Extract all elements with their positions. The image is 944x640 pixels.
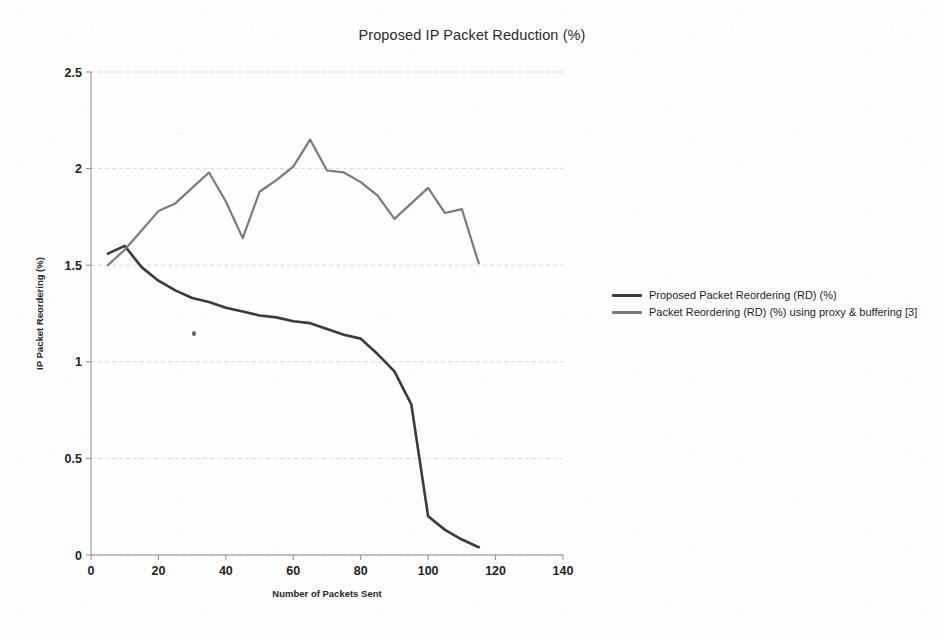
svg-text:0.5: 0.5	[65, 452, 82, 466]
svg-text:2: 2	[75, 162, 82, 176]
series-line-2	[108, 140, 479, 266]
chart-figure: Proposed IP Packet Reduction (%) 00.511.…	[0, 0, 944, 640]
series-line-1	[108, 246, 479, 547]
tick-labels: 00.511.522.5020406080100120140	[65, 66, 574, 579]
legend-swatch-series-2	[612, 311, 642, 314]
svg-text:1: 1	[75, 355, 82, 369]
x-axis-title: Number of Packets Sent	[272, 588, 382, 599]
svg-text:0: 0	[88, 564, 95, 578]
svg-text:2.5: 2.5	[65, 66, 82, 80]
axis-lines	[91, 72, 563, 555]
svg-text:20: 20	[151, 564, 165, 578]
legend-item[interactable]: Packet Reordering (RD) (%) using proxy &…	[612, 305, 934, 319]
svg-text:60: 60	[286, 564, 300, 578]
legend-label-series-1: Proposed Packet Reordering (RD) (%)	[649, 288, 837, 302]
svg-text:120: 120	[485, 564, 506, 578]
tick-marks	[86, 72, 563, 560]
legend-swatch-series-1	[612, 294, 642, 297]
svg-text:1.5: 1.5	[65, 259, 82, 273]
legend-item[interactable]: Proposed Packet Reordering (RD) (%)	[612, 288, 934, 302]
legend-label-series-2: Packet Reordering (RD) (%) using proxy &…	[649, 305, 917, 319]
svg-text:80: 80	[354, 564, 368, 578]
scan-artifact-speck	[192, 331, 196, 336]
data-series	[108, 140, 479, 548]
svg-text:100: 100	[418, 564, 439, 578]
svg-text:40: 40	[219, 564, 233, 578]
svg-text:140: 140	[553, 564, 574, 578]
grid-lines	[91, 72, 563, 555]
y-axis-title: IP Packet Reordering (%)	[34, 257, 45, 370]
chart-legend: Proposed Packet Reordering (RD) (%) Pack…	[612, 288, 934, 322]
svg-text:0: 0	[75, 549, 82, 563]
axis-titles: Number of Packets SentIP Packet Reorderi…	[34, 257, 382, 599]
